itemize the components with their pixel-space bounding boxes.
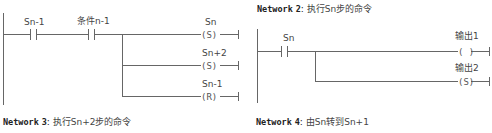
network-keyword: Network bbox=[256, 117, 292, 127]
coil-label-sn-minus-1: Sn-1 bbox=[202, 79, 222, 89]
coil-symbol-sn-plus-2: (S) bbox=[201, 61, 217, 71]
coil-symbol-sn: (S) bbox=[201, 30, 217, 40]
coil-label-output-1: 输出1 bbox=[455, 31, 479, 41]
network-description: 执行Sn+2步的命令 bbox=[53, 117, 132, 127]
network-3-title: Network 3: 执行Sn+2步的命令 bbox=[3, 117, 131, 128]
contact-label-sn: Sn bbox=[283, 33, 294, 43]
coil-symbol-output-2: (S) bbox=[458, 77, 474, 87]
coil-label-output-2: 输出2 bbox=[455, 63, 479, 73]
coil-label-sn-plus-2: Sn+2 bbox=[202, 48, 227, 58]
network-keyword: Network bbox=[257, 4, 293, 14]
ladder-diagram-wiring: (S) (S) (R) ( ) (S) bbox=[0, 0, 492, 133]
coil-label-sn: Sn bbox=[205, 17, 216, 27]
network-keyword: Network bbox=[3, 117, 39, 127]
coil-symbol-sn-minus-1: (R) bbox=[201, 92, 217, 102]
network-description: 由Sn转到Sn+1 bbox=[306, 117, 369, 127]
coil-symbol-output-1: ( ) bbox=[458, 47, 474, 57]
network-description: 执行Sn步的命令 bbox=[307, 4, 372, 14]
network-2-title: Network 2: 执行Sn步的命令 bbox=[257, 4, 372, 15]
contact-label-sn-minus-1: Sn-1 bbox=[24, 17, 44, 27]
contact-label-condition-n-minus-1: 条件n-1 bbox=[77, 16, 110, 26]
network-4-title: Network 4: 由Sn转到Sn+1 bbox=[256, 117, 369, 128]
